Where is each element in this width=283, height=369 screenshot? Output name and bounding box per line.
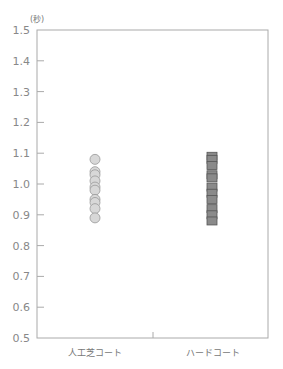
y-tick-label: 0.8 [13, 240, 31, 253]
y-tick-label: 0.5 [13, 332, 31, 345]
caption-faint [25, 360, 265, 363]
category-label-artificial-turf: 人工芝コート [68, 347, 122, 358]
circle-marker [90, 213, 100, 223]
y-tick-label: 1.4 [13, 55, 31, 68]
square-marker [207, 162, 217, 170]
y-tick-label: 1.0 [13, 178, 31, 191]
y-tick-label: 0.6 [13, 301, 31, 314]
y-tick-label: 1.1 [13, 147, 31, 160]
plot-frame [37, 30, 268, 338]
category-label-hard-court: ハードコート [186, 348, 240, 358]
data-points [90, 152, 217, 225]
y-axis: 0.50.60.70.80.91.01.11.21.31.41.5 [13, 24, 45, 345]
circle-marker [90, 204, 100, 214]
y-axis-unit: (秒) [30, 14, 44, 24]
y-tick-label: 0.7 [13, 270, 31, 283]
square-marker [207, 174, 217, 182]
square-marker [207, 195, 217, 203]
circle-marker [90, 185, 100, 195]
y-tick-label: 0.9 [13, 209, 31, 222]
y-tick-label: 1.5 [13, 24, 31, 37]
y-tick-label: 1.2 [13, 116, 31, 129]
circle-marker [90, 154, 100, 164]
y-tick-label: 1.3 [13, 86, 31, 99]
square-marker [207, 217, 217, 225]
strip-chart: (秒) 0.50.60.70.80.91.01.11.21.31.41.5 人工… [0, 0, 283, 369]
